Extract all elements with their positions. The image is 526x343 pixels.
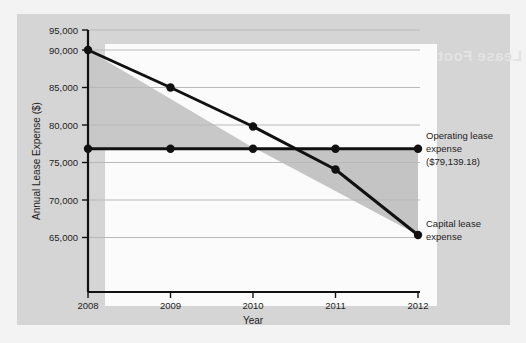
x-tick-label-2011: 2011: [325, 300, 345, 311]
annotation-capital-lease: Capital lease expense: [426, 218, 481, 242]
y-tick-label-80000: 80,000: [49, 120, 78, 131]
x-tick-label-2012: 2012: [407, 300, 428, 311]
operating-label-line-2: expense: [426, 143, 462, 154]
y-tick-label-90000: 90,000: [49, 45, 78, 56]
capital-label-line-2: expense: [426, 231, 462, 242]
operating-label-line-3: ($79,139.18): [426, 156, 480, 167]
annotation-operating-lease: Operating lease expense ($79,139.18): [426, 130, 493, 167]
operating-label-line-1: Operating lease: [426, 130, 493, 141]
capital-label-line-1: Capital lease: [426, 218, 481, 229]
chart-screenshot-root: Lease Footnote Disclosure Residual show-…: [0, 0, 526, 343]
y-tick-label-95000: 95,000: [49, 25, 78, 36]
x-axis-title: Year: [243, 315, 264, 326]
lease-expense-chart: 95,000 90,000 85,000 80,000 75,000 70,00…: [0, 0, 526, 343]
fill-operating-above-capital: [256, 149, 418, 235]
fill-capital-above-operating: [88, 50, 256, 149]
y-tick-label-70000: 70,000: [49, 195, 78, 206]
y-tick-label-85000: 85,000: [49, 82, 78, 93]
x-tick-label-2010: 2010: [242, 300, 263, 311]
y-axis-title: Annual Lease Expense ($): [31, 102, 42, 220]
x-tick-label-2008: 2008: [77, 300, 98, 311]
x-tick-label-2009: 2009: [160, 300, 181, 311]
y-tick-label-75000: 75,000: [49, 157, 78, 168]
y-tick-label-65000: 65,000: [49, 232, 78, 243]
